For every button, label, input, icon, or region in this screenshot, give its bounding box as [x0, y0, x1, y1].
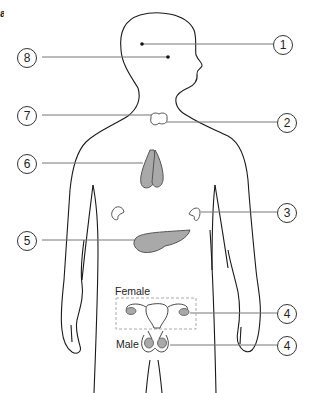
pancreas: [134, 230, 190, 253]
testis-right: [158, 338, 167, 348]
body-outline-diagram: [0, 0, 314, 393]
label-7: 7: [17, 106, 37, 126]
thymus-gland: [141, 150, 164, 188]
brain-dot-front: [140, 42, 144, 46]
label-6: 6: [17, 154, 37, 174]
label-4-male: 4: [277, 336, 297, 356]
thyroid-gland: [151, 113, 167, 125]
uterus: [126, 304, 187, 328]
label-4-female: 4: [277, 304, 297, 324]
label-1: 1: [273, 35, 293, 55]
testis-left: [145, 338, 154, 348]
female-label: Female: [115, 285, 150, 297]
male-label: Male: [116, 338, 139, 350]
label-5: 5: [17, 231, 37, 251]
label-8: 8: [17, 48, 37, 68]
adrenal-left: [112, 207, 124, 220]
label-3: 3: [277, 203, 297, 223]
ovary-left: [126, 308, 136, 315]
ovary-right: [179, 309, 189, 316]
panel-letter: a: [0, 7, 4, 19]
label-2: 2: [277, 113, 297, 133]
leader-lines: [42, 44, 277, 345]
brain-dot-back: [166, 55, 170, 59]
adrenal-right: [189, 208, 200, 220]
